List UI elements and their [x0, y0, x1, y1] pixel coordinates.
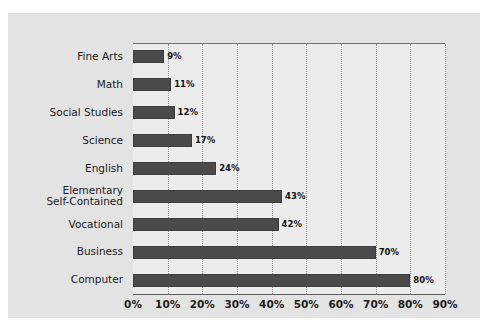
category-label: English [0, 163, 123, 175]
bar [133, 246, 376, 259]
category-label: Computer [0, 274, 123, 286]
bar [133, 78, 171, 91]
x-axis-line [133, 294, 445, 295]
bar [133, 162, 216, 175]
bar-row: Fine Arts9% [8, 43, 480, 71]
bar-row: Math11% [8, 71, 480, 99]
bar-row: Business70% [8, 238, 480, 266]
bar-row: Social Studies12% [8, 99, 480, 127]
bar-value-label: 9% [167, 50, 181, 63]
category-label: Science [0, 135, 123, 147]
category-label: Social Studies [0, 107, 123, 119]
bar-chart-figure: Fine Arts9%Math11%Social Studies12%Scien… [0, 0, 488, 326]
bar-row: Computer80% [8, 266, 480, 294]
bar-value-label: 11% [174, 78, 194, 91]
bar-value-label: 80% [413, 274, 433, 287]
bar [133, 134, 192, 147]
bar-row: English24% [8, 155, 480, 183]
category-label: Vocational [0, 219, 123, 231]
chart-panel-background: Fine Arts9%Math11%Social Studies12%Scien… [8, 13, 480, 318]
bar-value-label: 70% [379, 246, 399, 259]
x-tick-label: 90% [425, 298, 465, 310]
bar-row: Elementary Self-Contained43% [8, 182, 480, 210]
bar [133, 218, 279, 231]
bar [133, 106, 175, 119]
bar-value-label: 24% [219, 162, 239, 175]
bar-row: Science17% [8, 127, 480, 155]
bar-value-label: 43% [285, 190, 305, 203]
bar [133, 274, 410, 287]
bar [133, 50, 164, 63]
bar-value-label: 42% [282, 218, 302, 231]
category-label: Business [0, 246, 123, 258]
category-label: Fine Arts [0, 51, 123, 63]
bar-value-label: 12% [178, 106, 198, 119]
bar-row: Vocational42% [8, 210, 480, 238]
bar [133, 190, 282, 203]
bar-value-label: 17% [195, 134, 215, 147]
category-label: Math [0, 79, 123, 91]
category-label: Elementary Self-Contained [0, 185, 123, 208]
